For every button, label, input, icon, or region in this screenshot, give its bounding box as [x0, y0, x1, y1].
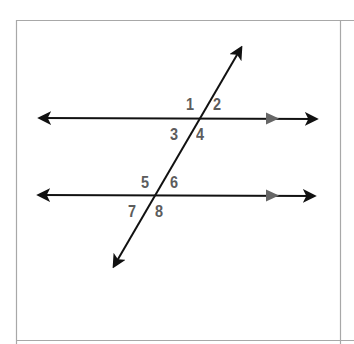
transversal-line — [114, 48, 241, 266]
panel-border — [16, 20, 354, 344]
angle-label-2: 2 — [213, 96, 221, 113]
diagram-frame: 1 2 3 4 5 6 7 8 — [0, 0, 354, 344]
angle-label-4: 4 — [196, 126, 204, 143]
diagram-canvas — [0, 0, 354, 344]
angle-label-5: 5 — [141, 174, 149, 191]
angle-label-3: 3 — [170, 126, 178, 143]
angle-label-8: 8 — [155, 203, 163, 220]
parallel-marker-icon — [266, 190, 279, 202]
angle-label-7: 7 — [128, 203, 136, 220]
angle-label-1: 1 — [186, 96, 194, 113]
parallel-marker-icon — [266, 113, 279, 125]
angle-label-6: 6 — [170, 174, 178, 191]
